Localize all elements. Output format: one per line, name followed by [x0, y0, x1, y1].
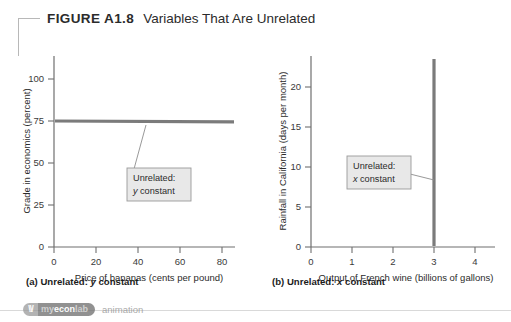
chart-b-ytick-0: 0 [296, 241, 301, 252]
chart-b-xtick-3: 3 [431, 256, 436, 267]
chart-b-ytick-10: 10 [290, 161, 301, 172]
chart-b-ytick-20: 20 [290, 81, 301, 92]
chart-a-callout-leader [134, 125, 146, 169]
myeconlab-mid: econ [54, 304, 75, 314]
chart-a-callout-line1: Unrelated: [133, 173, 175, 183]
chart-b-xtick-0: 0 [308, 256, 313, 267]
myeconlab-wordmark: myeconlab [38, 303, 95, 316]
myeconlab-badge[interactable]: \\/ myeconlab animation [23, 303, 143, 316]
figure-container: FIGURE A1.8Variables That Are Unrelated … [0, 0, 511, 322]
chart-a-xtick-80: 80 [217, 256, 228, 267]
figure-title: FIGURE A1.8Variables That Are Unrelated [47, 10, 315, 28]
chart-a-data-line [55, 121, 234, 122]
chart-b-svg: 0 5 10 15 20 0 1 2 3 4 Rainfall in Calif… [258, 46, 508, 301]
figure-title-text: Variables That Are Unrelated [143, 11, 315, 26]
chart-a-ytick-25: 25 [33, 199, 44, 210]
chart-b-ytick-5: 5 [296, 201, 301, 212]
chart-a-ytick-75: 75 [33, 115, 44, 126]
panel-b-caption: (b) Unrelated: x constant [272, 276, 385, 287]
chart-b-callout-leader [410, 174, 434, 180]
chart-b-xtick-1: 1 [349, 256, 354, 267]
panel-a-caption: (a) Unrelated: y constant [26, 276, 139, 287]
chart-b-callout-line2: constant [360, 174, 395, 184]
chart-b-y-axis-label: Rainfall in California (days per month) [277, 72, 288, 231]
myeconlab-prefix: my [41, 304, 54, 314]
myeconlab-caption: animation [102, 303, 143, 316]
panel-b-caption-variable: x [337, 276, 342, 287]
chart-a-callout-line2: constant [140, 186, 175, 196]
panel-b-caption-prefix: (b) Unrelated: [272, 276, 334, 287]
chart-a-svg: 0 25 50 75 100 0 20 40 60 80 Grade in ec… [4, 46, 254, 301]
chart-b-xtick-4: 4 [472, 256, 477, 267]
chart-b-callout-line1: Unrelated: [353, 161, 395, 171]
chart-panel-a: 0 25 50 75 100 0 20 40 60 80 Grade in ec… [4, 46, 254, 301]
chart-a-y-axis-label: Grade in economics (percent) [21, 88, 32, 213]
figure-bracket-top [18, 18, 40, 19]
chart-a-xtick-20: 20 [91, 256, 102, 267]
chart-b-ytick-15: 15 [290, 121, 301, 132]
myeconlab-suffix: lab [75, 304, 88, 314]
chart-a-ytick-100: 100 [28, 73, 44, 84]
chart-a-xtick-40: 40 [133, 256, 144, 267]
chart-a-xtick-0: 0 [51, 256, 56, 267]
panel-a-caption-suffix: constant [99, 276, 139, 287]
chart-b-x-ticks [311, 247, 475, 253]
figure-number: FIGURE A1.8 [47, 11, 134, 26]
chart-b-callout-variable: x [352, 174, 358, 184]
chart-a-ytick-0: 0 [39, 241, 44, 252]
chart-a-y-ticks [48, 79, 54, 247]
chart-b-y-ticks [305, 87, 311, 247]
chart-a-x-ticks [54, 247, 222, 253]
panel-b-caption-suffix: constant [345, 276, 385, 287]
chart-panel-b: 0 5 10 15 20 0 1 2 3 4 Rainfall in Calif… [258, 46, 508, 301]
panel-a-caption-prefix: (a) Unrelated: [26, 276, 88, 287]
panel-a-caption-variable: y [91, 276, 96, 287]
chart-a-ytick-50: 50 [33, 157, 44, 168]
myeconlab-mark-icon: \\/ [23, 303, 38, 316]
chart-a-xtick-60: 60 [175, 256, 186, 267]
chart-b-xtick-2: 2 [390, 256, 395, 267]
